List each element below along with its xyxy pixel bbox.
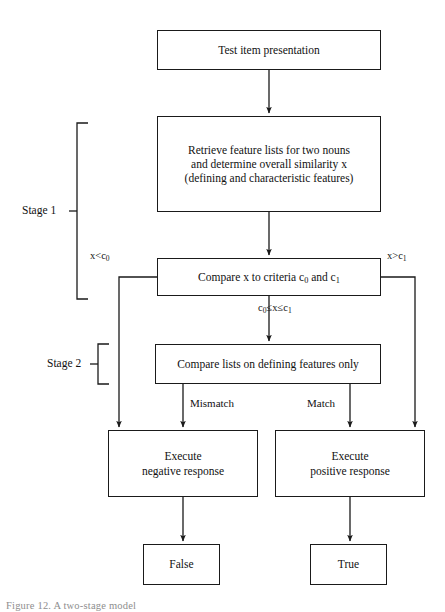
node-label-test-item-presentation: Test item presentation bbox=[212, 43, 325, 57]
node-true-outcome: True bbox=[310, 544, 387, 585]
node-label-false-outcome: False bbox=[163, 557, 199, 571]
node-label-compare-defining-features: Compare lists on defining features only bbox=[171, 357, 365, 371]
node-label-compare-x-to-criteria: Compare x to criteria c0 and c1 bbox=[192, 270, 346, 284]
node-retrieve-feature-lists: Retrieve feature lists for two nouns and… bbox=[157, 116, 381, 212]
node-label-execute-positive-response: Execute positive response bbox=[304, 449, 396, 477]
edge-label-x-less-than-c0: x<c0 bbox=[90, 251, 110, 262]
connector-x-less-c0-to-negative bbox=[119, 277, 157, 427]
figure-caption: Figure 12. A two-stage model bbox=[6, 601, 136, 612]
flowchart-diagram: Test item presentation Retrieve feature … bbox=[0, 0, 445, 612]
edge-label-match: Match bbox=[307, 398, 335, 409]
flowchart-connectors-layer bbox=[0, 0, 445, 612]
edge-label-c0-le-x-le-c1: c0≤x≤c1 bbox=[258, 303, 292, 314]
stage-1-label: Stage 1 bbox=[22, 205, 56, 217]
node-execute-negative-response: Execute negative response bbox=[108, 430, 258, 497]
node-label-retrieve-feature-lists: Retrieve feature lists for two nouns and… bbox=[179, 143, 360, 185]
stage-1-bracket bbox=[77, 123, 88, 299]
stage-2-label: Stage 2 bbox=[47, 358, 81, 370]
edge-label-x-greater-than-c1: x>c1 bbox=[387, 251, 407, 262]
stage-2-bracket bbox=[98, 344, 109, 384]
node-false-outcome: False bbox=[143, 544, 220, 585]
connector-x-greater-c1-to-positive bbox=[381, 277, 415, 427]
node-test-item-presentation: Test item presentation bbox=[157, 30, 381, 70]
node-execute-positive-response: Execute positive response bbox=[275, 430, 425, 497]
node-compare-x-to-criteria: Compare x to criteria c0 and c1 bbox=[157, 258, 381, 296]
edge-label-mismatch: Mismatch bbox=[190, 398, 234, 409]
node-compare-defining-features: Compare lists on defining features only bbox=[155, 344, 381, 384]
node-label-true-outcome: True bbox=[332, 557, 365, 571]
node-label-execute-negative-response: Execute negative response bbox=[136, 449, 230, 477]
